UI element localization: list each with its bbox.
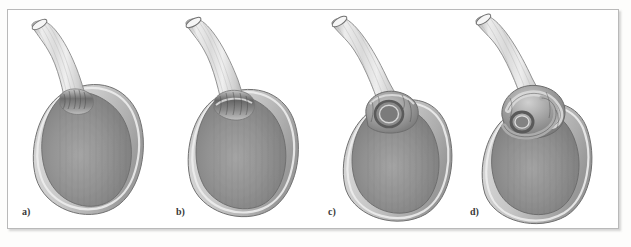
neck-torsion-loop-inner-c — [380, 105, 399, 123]
gallbladder-illustration-d — [460, 10, 610, 228]
figure-plate: a) — [7, 9, 619, 229]
neck-torsion-loop-inner-d — [515, 116, 529, 128]
gallbladder-illustration-c — [318, 10, 468, 228]
panel-label-d: d) — [470, 207, 479, 217]
gallbladder-illustration-a — [14, 10, 164, 228]
figure-root: a) — [0, 0, 631, 247]
figure-panel-d: d) — [460, 10, 610, 228]
figure-panel-b: b) — [166, 10, 316, 228]
panel-label-c: c) — [328, 207, 336, 217]
gallbladder-illustration-b — [166, 10, 316, 228]
figure-panel-c: c) — [318, 10, 468, 228]
panel-label-b: b) — [176, 207, 185, 217]
panel-container: a) — [8, 10, 618, 228]
figure-panel-a: a) — [14, 10, 164, 228]
panel-label-a: a) — [22, 207, 30, 217]
